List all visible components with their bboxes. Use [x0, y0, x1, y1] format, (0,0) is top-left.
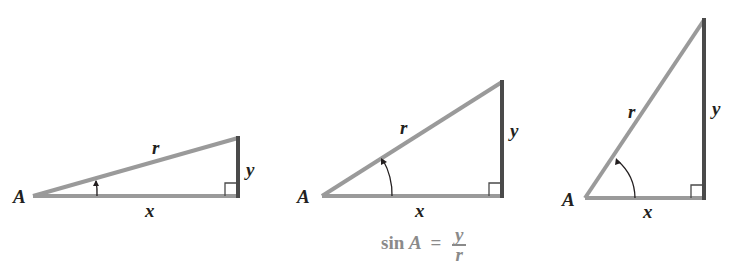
- triangle-1-hypotenuse: [33, 138, 238, 196]
- triangle-2-vertex-label: A: [296, 186, 310, 207]
- arrowhead-icon: [93, 180, 99, 186]
- formula-denominator: r: [452, 246, 466, 264]
- triangle-1-vertex-label: A: [12, 186, 26, 207]
- triangle-3-hypotenuse-label: r: [628, 101, 636, 122]
- formula-function: sin: [381, 232, 404, 253]
- formula-numerator: y: [452, 226, 466, 244]
- triangle-1-hypotenuse-label: r: [152, 137, 160, 158]
- triangle-3-opposite-label: y: [710, 98, 721, 119]
- triangle-2-hypotenuse: [322, 82, 502, 196]
- triangle-3: A r y x: [561, 18, 721, 222]
- right-triangles-diagram: A r y x A r y x A r y x: [0, 0, 738, 275]
- triangle-2-opposite-label: y: [508, 120, 519, 141]
- triangle-2: A r y x: [296, 80, 519, 221]
- triangle-1-opposite-label: y: [244, 159, 255, 180]
- arrowhead-icon: [615, 158, 621, 165]
- angle-arc-icon: [618, 161, 635, 198]
- triangle-3-vertex-label: A: [561, 189, 575, 210]
- sine-formula: sin A = y r: [381, 226, 466, 264]
- triangle-2-hypotenuse-label: r: [400, 117, 408, 138]
- triangle-1: A r y x: [12, 136, 255, 221]
- triangle-2-adjacent-label: x: [414, 200, 425, 221]
- triangle-1-adjacent-label: x: [144, 200, 155, 221]
- angle-arc-icon: [383, 160, 392, 196]
- formula-variable: A: [409, 232, 422, 253]
- formula-equals: =: [430, 232, 441, 253]
- formula-fraction: y r: [452, 226, 466, 264]
- triangle-3-adjacent-label: x: [642, 201, 653, 222]
- triangle-3-hypotenuse: [585, 20, 704, 198]
